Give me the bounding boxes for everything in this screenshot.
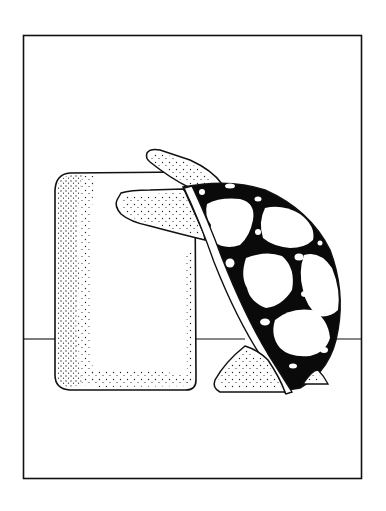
tortoise-illustration [0,0,386,511]
